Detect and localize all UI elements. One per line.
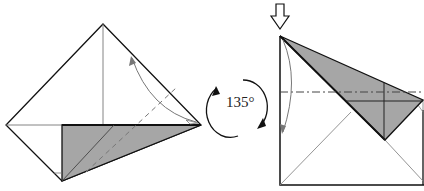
right-figure — [271, 4, 424, 185]
right-corner-tick — [418, 105, 423, 112]
rotation-symbol: 135° — [206, 80, 267, 137]
right-crease-left-diagonal — [280, 112, 351, 185]
right-gray-flap — [280, 36, 423, 140]
right-fold-arrow — [283, 40, 292, 132]
left-gray-flap — [62, 125, 201, 181]
origami-diagram: 135° — [0, 0, 424, 191]
push-arrow-icon — [271, 4, 289, 29]
rotation-angle-label: 135° — [226, 94, 255, 110]
left-figure — [6, 24, 201, 181]
right-crease-right-diagonal — [385, 140, 423, 181]
